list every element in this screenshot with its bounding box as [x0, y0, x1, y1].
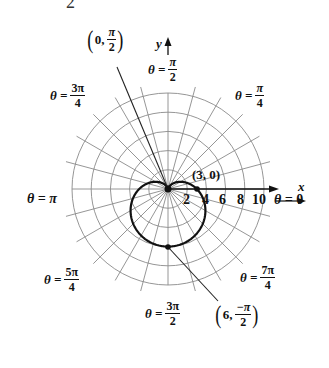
angle-label-pi-over-2: θ = π2: [148, 56, 177, 83]
grid-ray: [168, 189, 259, 242]
y-axis-arrowhead-icon: [165, 37, 172, 46]
point-6-negpi2: [165, 244, 171, 250]
angle-label-0: θ = 0: [274, 193, 303, 207]
angle-label-3pi-over-4: θ = 3π4: [50, 82, 85, 109]
point-3-0: [194, 186, 200, 192]
polar-graph: 2 y x 2 4 6 8 10 θ = 0 θ = π: [0, 0, 329, 368]
angle-label-3pi-over-2: θ = 3π2: [145, 300, 180, 327]
grid-ray: [141, 87, 168, 189]
point-label-0-pi-over-2: ( 0, π2 ): [86, 26, 125, 53]
y-axis-label: y: [156, 37, 162, 50]
grid-ray: [115, 98, 168, 189]
angle-label-5pi-over-4: θ = 5π4: [44, 266, 79, 293]
point-origin: [165, 186, 172, 193]
angle-label-7pi-over-4: θ = 7π4: [240, 264, 275, 291]
tick-label-4: 4: [202, 193, 209, 207]
grid-ray: [66, 189, 168, 216]
point-label-3-0: (3, 0): [192, 168, 220, 181]
grid-ray: [93, 114, 168, 189]
leader-line-6-negpi2: [168, 247, 218, 301]
tick-label-2: 2: [183, 193, 190, 207]
grid-ray: [77, 189, 168, 242]
grid-ray: [66, 162, 168, 189]
cropped-top-digit: 2: [66, 0, 75, 13]
tick-label-6: 6: [219, 193, 226, 207]
tick-label-10: 10: [252, 193, 266, 207]
angle-label-pi: θ = π: [27, 192, 57, 206]
angle-label-pi-over-4: θ = π4: [235, 82, 264, 109]
leader-line-0-pi2: [117, 67, 168, 189]
grid-ray: [93, 189, 168, 264]
tick-label-8: 8: [237, 193, 244, 207]
point-label-6-neg-pi-over-2: ( 6, −π2 ): [214, 301, 260, 328]
